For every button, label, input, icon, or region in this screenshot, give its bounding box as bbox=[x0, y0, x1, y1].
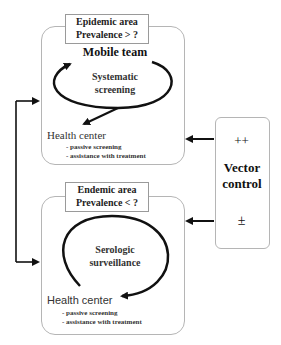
diagram-arrows bbox=[0, 0, 281, 345]
systematic-screening-cycle-icon bbox=[54, 62, 172, 108]
health-center-referral-arrow bbox=[84, 108, 118, 124]
left-bracket-arrow bbox=[16, 101, 38, 262]
serologic-surveillance-cycle-icon bbox=[63, 216, 168, 296]
